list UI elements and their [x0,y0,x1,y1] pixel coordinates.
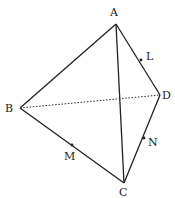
point-label-L: L [146,50,154,63]
edge-AD [116,24,160,95]
point-label-M: M [64,150,75,163]
point-N [143,137,146,140]
tetrahedron-diagram: ABCDLMN [0,0,175,198]
vertex-label-A: A [109,6,119,19]
point-L [140,59,143,62]
vertex-label-D: D [162,89,171,102]
point-label-N: N [148,136,158,149]
vertex-label-B: B [5,102,13,115]
edge-BD [20,95,160,108]
point-M [71,144,74,147]
edge-AC [116,24,124,183]
vertex-label-C: C [119,186,127,198]
edges [20,24,160,183]
edge-AB [20,24,116,108]
